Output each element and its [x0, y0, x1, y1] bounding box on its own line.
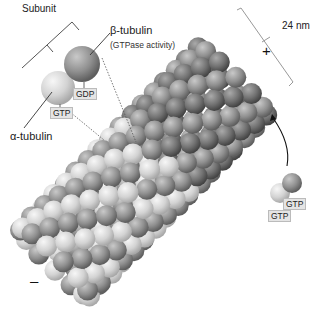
gtp-badge: GTP [50, 107, 73, 119]
tubulin-sphere [39, 217, 60, 238]
tubulin-sphere [133, 198, 154, 219]
tubulin-sphere [96, 205, 117, 226]
tubulin-sphere [101, 167, 122, 188]
tubulin-sphere [225, 67, 246, 88]
alpha-tubulin-label: α-tubulin [10, 130, 52, 142]
minus-end-label: – [30, 272, 38, 289]
tubulin-sphere [79, 190, 100, 211]
tubulin-sphere [136, 179, 157, 200]
tubulin-sphere [58, 213, 79, 234]
tubulin-sphere [93, 225, 114, 246]
tubulin-sphere [82, 171, 103, 192]
tubulin-sphere [185, 93, 206, 114]
tubulin-sphere [166, 98, 187, 119]
gtpase-activity-label: (GTPase activity) [110, 40, 175, 50]
tubulin-sphere [241, 83, 262, 104]
tubulin-sphere [198, 129, 219, 150]
microtubule-diagram: Subunit β-tubulin (GTPase activity) α-tu… [0, 0, 326, 313]
tubulin-sphere [89, 244, 110, 265]
tubulin-sphere [154, 175, 175, 196]
beta-tubulin-sphere [64, 46, 100, 82]
tubulin-sphere [68, 267, 89, 288]
tubulin-sphere [144, 121, 165, 142]
tubulin-sphere [36, 236, 57, 257]
alpha-leader [24, 92, 52, 128]
tubulin-sphere [72, 248, 93, 269]
guide-line-bottom [70, 112, 104, 140]
tubulin-sphere [118, 182, 139, 203]
tubulin-sphere [158, 156, 179, 177]
tubulin-sphere [201, 110, 222, 131]
subunit-label: Subunit [22, 3, 56, 14]
tubulin-sphere [182, 113, 203, 134]
tubulin-sphere [219, 106, 240, 127]
tubulin-sphere [223, 87, 244, 108]
tubulin-sphere [74, 228, 95, 249]
tubulin-sphere [98, 186, 119, 207]
tubulin-sphere [161, 136, 182, 157]
beta-tubulin-label: β-tubulin [110, 24, 152, 36]
tubulin-sphere [53, 251, 74, 272]
free-gtp-badge-bottom: GTP [268, 210, 291, 222]
plus-end-label: + [262, 42, 271, 59]
diameter-label: 24 nm [282, 20, 310, 31]
tubulin-sphere [115, 202, 136, 223]
tubulin-sphere [104, 149, 125, 170]
tubulin-sphere [204, 90, 225, 111]
gdp-badge: GDP [73, 88, 97, 100]
tubulin-sphere [120, 163, 141, 184]
tubulin-sphere [163, 116, 184, 137]
tubulin-sphere [206, 70, 227, 91]
tubulin-sphere [111, 221, 132, 242]
tubulin-sphere [176, 152, 197, 173]
tubulin-sphere [55, 232, 76, 253]
tubulin-sphere [142, 140, 163, 161]
beta-leader [90, 33, 110, 55]
tubulin-sphere [77, 209, 98, 230]
free-beta-sphere [282, 173, 302, 193]
free-gtp-badge-top: GTP [283, 198, 306, 210]
tubulin-sphere [139, 159, 160, 180]
tubulin-sphere [61, 194, 82, 215]
tubulin-sphere [187, 75, 208, 96]
tubulin-sphere [209, 52, 230, 73]
assembly-arrow [273, 118, 288, 166]
tubulin-sphere [126, 126, 147, 147]
tubulin-sphere [180, 133, 201, 154]
tubulin-sphere [123, 144, 144, 165]
